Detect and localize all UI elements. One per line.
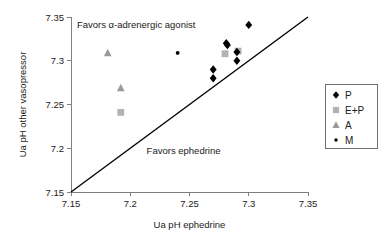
- data-point-p: [245, 21, 252, 29]
- scatter-plot-figure: 7.157.27.257.37.357.157.27.257.37.35Ua p…: [0, 0, 389, 240]
- x-tick-label: 7.3: [242, 198, 255, 209]
- plot-canvas: 7.157.27.257.37.357.157.27.257.37.35Ua p…: [0, 0, 389, 240]
- legend-label-p: P: [345, 90, 352, 101]
- y-tick-label: 7.2: [51, 143, 64, 154]
- legend-marker-eplusp: [333, 107, 339, 113]
- data-point-eplusp: [222, 50, 229, 57]
- y-axis-title: Ua pH other vasopressor: [17, 52, 28, 158]
- y-tick-label: 7.35: [46, 12, 65, 23]
- data-point-a: [117, 84, 125, 91]
- legend-label-a: A: [345, 120, 352, 131]
- x-axis-title: Ua pH ephedrine: [154, 219, 226, 230]
- favors-alpha-adrenergic-agonist: Favors α-adrenergic agonist: [77, 19, 196, 30]
- y-tick-label: 7.25: [46, 99, 65, 110]
- line-of-identity: [71, 17, 308, 192]
- data-point-eplusp: [117, 109, 124, 116]
- x-tick-label: 7.2: [124, 198, 137, 209]
- y-tick-label: 7.3: [51, 55, 64, 66]
- x-tick-label: 7.25: [180, 198, 199, 209]
- data-point-p: [210, 65, 217, 73]
- x-tick-label: 7.15: [62, 198, 81, 209]
- data-point-p: [210, 74, 217, 82]
- data-point-m: [176, 51, 180, 55]
- data-point-a: [104, 49, 112, 56]
- y-tick-label: 7.15: [46, 187, 65, 198]
- data-point-p: [233, 57, 240, 65]
- favors-ephedrine: Favors ephedrine: [147, 145, 221, 156]
- legend-label-m: M: [345, 135, 353, 146]
- x-tick-label: 7.35: [299, 198, 318, 209]
- legend-marker-m: [334, 138, 337, 141]
- legend-label-eplusp: E+P: [345, 105, 365, 116]
